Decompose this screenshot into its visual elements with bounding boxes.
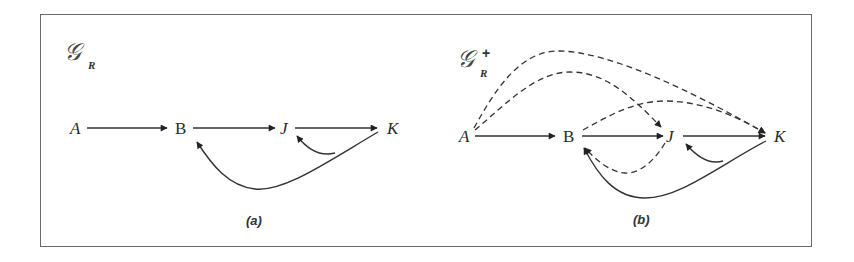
node-j: J (280, 119, 289, 138)
panel-b: 𝒢 R + A B J K (b) (457, 45, 787, 227)
graph-label-a: 𝒢 R (64, 38, 95, 71)
caption-b: (b) (633, 212, 650, 227)
edge-k-j (297, 136, 335, 154)
node-k: K (773, 127, 787, 146)
node-b: B (175, 119, 186, 138)
edge-k-j (686, 144, 723, 162)
node-b: B (563, 127, 574, 146)
edge-a-k-dashed (474, 51, 765, 133)
node-a: A (458, 127, 470, 146)
caption-a: (a) (246, 213, 262, 228)
edge-k-b (584, 141, 766, 198)
node-a: A (69, 119, 81, 138)
node-k: K (386, 119, 400, 138)
edge-k-b (197, 132, 378, 189)
panel-a: 𝒢 R A B J K (a) (64, 38, 400, 228)
graph-superscript-b: + (482, 45, 490, 61)
edge-a-j-dashed (475, 72, 661, 130)
diagram-canvas: 𝒢 R A B J K (a) 𝒢 R + A B J K (0, 0, 854, 262)
node-j: J (666, 127, 675, 146)
